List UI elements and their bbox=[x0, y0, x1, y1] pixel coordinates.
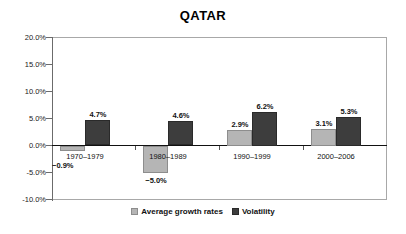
y-axis-tick-mark bbox=[46, 91, 52, 92]
y-axis-tick-mark bbox=[46, 172, 52, 173]
chart-legend: Average growth rates Volatility bbox=[0, 207, 406, 216]
y-axis-tick-mark bbox=[46, 199, 52, 200]
y-axis-tick-5: 5.0% bbox=[0, 114, 46, 124]
y-axis-tick-label: -10.0% bbox=[2, 195, 46, 204]
category-label-1970-1979: 1970–1979 bbox=[51, 152, 119, 161]
data-label-volatility-1990-1999: 6.2% bbox=[249, 102, 281, 111]
chart-container: QATAR 20.0% 15.0% 10.0% 5.0% 0.0% -5.0% … bbox=[0, 0, 406, 234]
y-axis-tick-label: 5.0% bbox=[2, 114, 46, 123]
y-axis-tick-20: 20.0% bbox=[0, 33, 46, 43]
legend-item-average-growth-rates[interactable]: Average growth rates bbox=[131, 207, 223, 216]
data-label-growth-2000-2006: 3.1% bbox=[308, 119, 340, 128]
y-axis-tick-neg10: -10.0% bbox=[0, 195, 46, 205]
legend-swatch-icon bbox=[131, 208, 138, 215]
data-label-volatility-1980-1989: 4.6% bbox=[165, 111, 197, 120]
x-axis-tick-mark bbox=[219, 146, 220, 150]
data-label-volatility-1970-1979: 4.7% bbox=[82, 110, 114, 119]
data-label-growth-1980-1989: −5.0% bbox=[136, 176, 176, 185]
y-axis-tick-neg5: -5.0% bbox=[0, 168, 46, 178]
y-axis-tick-10: 10.0% bbox=[0, 87, 46, 97]
y-axis-tick-label: 0.0% bbox=[2, 141, 46, 150]
y-axis-tick-15: 15.0% bbox=[0, 60, 46, 70]
y-axis-tick-label: 20.0% bbox=[2, 33, 46, 42]
y-axis-tick-0: 0.0% bbox=[0, 141, 46, 151]
bar-volatility-1990-1999[interactable] bbox=[252, 112, 277, 146]
y-axis-tick-label: 15.0% bbox=[2, 60, 46, 69]
bar-growth-1970-1979[interactable] bbox=[60, 146, 85, 151]
category-label-1980-1989: 1980–1989 bbox=[134, 152, 202, 161]
y-axis-line bbox=[52, 37, 53, 201]
y-axis-tick-mark bbox=[46, 37, 52, 38]
y-axis-tick-label: 10.0% bbox=[2, 87, 46, 96]
bar-growth-1990-1999[interactable] bbox=[227, 130, 252, 146]
data-label-growth-1970-1979: −0.9% bbox=[52, 161, 92, 170]
legend-label: Average growth rates bbox=[141, 207, 223, 216]
chart-title: QATAR bbox=[0, 8, 406, 23]
bar-growth-2000-2006[interactable] bbox=[311, 129, 336, 146]
x-axis-tick-mark bbox=[303, 146, 304, 150]
data-label-growth-1990-1999: 2.9% bbox=[224, 120, 256, 129]
category-label-1990-1999: 1990–1999 bbox=[218, 152, 286, 161]
category-label-2000-2006: 2000–2006 bbox=[302, 152, 370, 161]
bar-volatility-1970-1979[interactable] bbox=[85, 120, 110, 145]
data-label-volatility-2000-2006: 5.3% bbox=[333, 107, 365, 116]
legend-item-volatility[interactable]: Volatility bbox=[232, 207, 275, 216]
y-axis-tick-label: -5.0% bbox=[2, 168, 46, 177]
legend-swatch-icon bbox=[232, 208, 239, 215]
y-axis-tick-mark bbox=[46, 118, 52, 119]
bar-volatility-1980-1989[interactable] bbox=[168, 121, 193, 145]
x-axis-tick-mark bbox=[135, 146, 136, 150]
legend-label: Volatility bbox=[242, 207, 275, 216]
y-axis-tick-mark bbox=[46, 64, 52, 65]
